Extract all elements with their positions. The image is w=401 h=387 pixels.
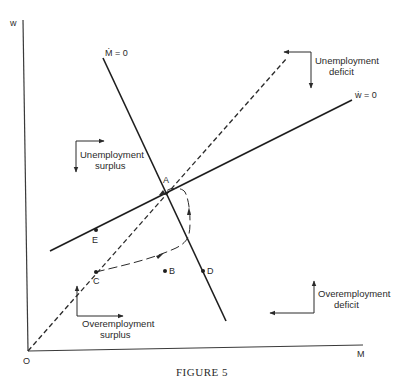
phase-diagram: w M O Ṁ = 0 ẇ = 0 A B C D E [0, 0, 401, 387]
dashed-ray [28, 58, 287, 351]
m-dot-zero-line [103, 58, 226, 321]
m-dot-zero-label: Ṁ = 0 [105, 48, 128, 58]
region-label: deficit [334, 299, 359, 310]
y-axis [23, 20, 28, 351]
points: A B C D E [92, 175, 214, 286]
trajectory-arrow-icon [187, 207, 191, 215]
region-label: Overemployment [318, 288, 391, 299]
region-label: surplus [100, 329, 131, 340]
x-axis-label: M [357, 349, 365, 359]
origin-label: O [23, 356, 30, 366]
point-label: A [163, 175, 169, 185]
point-label: C [93, 276, 100, 286]
point-label: E [92, 235, 98, 245]
region-unemployment-deficit: Unemployment deficit [284, 52, 379, 88]
x-axis [28, 345, 363, 351]
trajectory-arrow-icon [156, 253, 164, 259]
region-overemployment-surplus: Overemployment surplus [77, 286, 155, 340]
point-label: D [207, 266, 214, 276]
region-overemployment-deficit: Overemployment deficit [270, 281, 391, 313]
region-label: Unemployment [80, 149, 144, 160]
point-e: E [92, 228, 98, 245]
point-c: C [93, 270, 100, 286]
w-dot-zero-label: ẇ = 0 [354, 90, 377, 100]
point-a: A [163, 175, 169, 185]
point-b: B [163, 266, 175, 276]
y-axis-label: w [9, 18, 17, 28]
region-label: Unemployment [315, 55, 379, 66]
region-unemployment-surplus: Unemployment surplus [76, 141, 144, 172]
region-label: Overemployment [82, 318, 155, 329]
figure-caption: FIGURE 5 [176, 366, 228, 378]
region-label: surplus [95, 160, 126, 171]
region-label: deficit [329, 66, 354, 77]
point-label: B [169, 266, 175, 276]
point-d: D [201, 266, 214, 276]
adjustment-path [96, 188, 190, 272]
